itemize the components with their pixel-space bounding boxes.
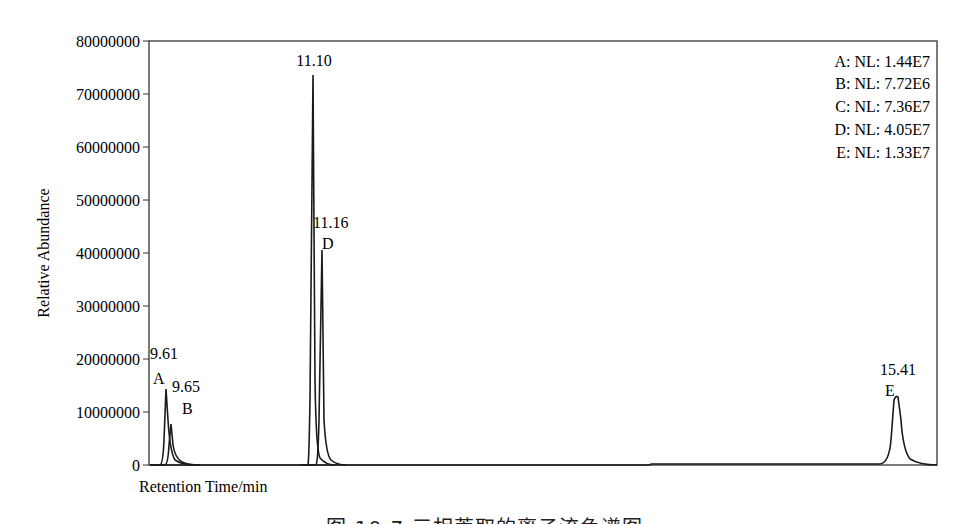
peak-label-b-rt: 9.65: [172, 378, 200, 395]
peak-label-a-letter: A: [153, 370, 165, 387]
peak-label-d-letter: D: [322, 235, 334, 252]
plot-frame: [149, 41, 937, 465]
chromatogram-chart: 0 10000000 20000000 30000000 40000000 50…: [0, 0, 969, 524]
y-tick-label: 80000000: [76, 33, 140, 50]
peak-label-b-letter: B: [182, 400, 193, 417]
trace-e: [150, 396, 937, 465]
peak-label-a-rt: 9.61: [150, 345, 178, 362]
y-tick-label: 20000000: [76, 351, 140, 368]
y-tick: 20000000: [76, 351, 149, 368]
y-tick-label: 50000000: [76, 192, 140, 209]
y-tick: 40000000: [76, 245, 149, 262]
trace-c: [300, 75, 335, 465]
peak-label-d-rt: 11.16: [313, 214, 348, 231]
y-tick: 80000000: [76, 33, 149, 50]
y-tick-label: 60000000: [76, 139, 140, 156]
legend-item-c: C: NL: 7.36E7: [835, 98, 930, 115]
y-tick: 0: [132, 457, 149, 474]
peak-label-c-rt: 11.10: [296, 52, 331, 69]
y-tick-label: 70000000: [76, 86, 140, 103]
y-tick: 70000000: [76, 86, 149, 103]
y-axis: 0 10000000 20000000 30000000 40000000 50…: [76, 33, 149, 474]
legend: A: NL: 1.44E7 B: NL: 7.72E6 C: NL: 7.36E…: [834, 53, 930, 161]
y-tick-label: 30000000: [76, 298, 140, 315]
y-axis-title: Relative Abundance: [35, 188, 52, 317]
legend-item-d: D: NL: 4.05E7: [834, 121, 930, 138]
legend-item-b: B: NL: 7.72E6: [835, 75, 930, 92]
y-tick: 30000000: [76, 298, 149, 315]
legend-item-e: E: NL: 1.33E7: [836, 144, 930, 161]
peak-label-e-rt: 15.41: [880, 361, 916, 378]
y-tick-label: 0: [132, 457, 140, 474]
y-tick: 50000000: [76, 192, 149, 209]
x-axis-title: Retention Time/min: [139, 478, 267, 495]
y-tick: 60000000: [76, 139, 149, 156]
peak-label-e-letter: E: [885, 382, 895, 399]
y-tick: 10000000: [76, 404, 149, 421]
figure-caption: 图 10-7 三相萃取的离子流色谱图: [0, 508, 969, 524]
y-tick-label: 40000000: [76, 245, 140, 262]
traces: [150, 75, 937, 465]
legend-item-a: A: NL: 1.44E7: [834, 53, 930, 70]
peak-annotations: 9.61 A 9.65 B 11.10 11.16 D 15.41 E: [150, 52, 916, 417]
y-tick-label: 10000000: [76, 404, 140, 421]
